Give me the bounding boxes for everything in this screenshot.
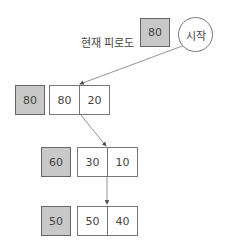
current-fatigue-value: 80 [140, 18, 170, 47]
row1-fatigue: 80 [15, 85, 45, 115]
arrow-row1-to-row2 [80, 114, 106, 146]
start-node: 시작 [178, 17, 213, 52]
row1-cell-2: 20 [79, 85, 110, 115]
current-fatigue-label: 현재 피로도 [81, 34, 135, 50]
row2-fatigue: 60 [41, 147, 71, 177]
row3-cell-1: 50 [77, 206, 108, 236]
fatigue-diagram: 현재 피로도 80 시작 80 80 20 60 30 10 50 50 40 [0, 0, 227, 250]
arrow-start-to-row1 [80, 45, 185, 84]
row2-cell-2: 10 [107, 147, 138, 177]
row1-cell-1: 80 [49, 85, 80, 115]
row3-cell-2: 40 [107, 206, 138, 236]
row2-cell-1: 30 [77, 147, 108, 177]
row3-fatigue: 50 [41, 206, 71, 236]
